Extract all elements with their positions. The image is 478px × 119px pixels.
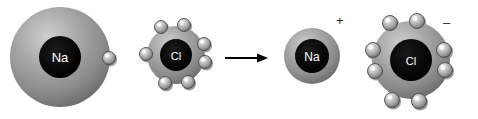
electron-highlight — [105, 54, 109, 58]
electron-highlight — [184, 78, 188, 82]
atom-symbol-label: Cl — [406, 55, 416, 67]
sodium-atom: Na — [10, 7, 117, 107]
electron-highlight — [201, 58, 205, 62]
valence-electron — [103, 52, 116, 65]
diagram-canvas: NaClNaCl — [0, 0, 478, 119]
electron-highlight — [368, 45, 373, 50]
valence-electron — [383, 16, 398, 31]
chloride-ion-charge-sign: – — [443, 16, 450, 29]
electron-highlight — [412, 16, 417, 21]
atom-symbol-label: Cl — [171, 50, 181, 62]
valence-electron — [198, 38, 211, 51]
ionic-bond-diagram: NaClNaCl +– — [0, 0, 478, 119]
chloride-ion: Cl — [366, 14, 455, 111]
electron-highlight — [440, 65, 445, 70]
valence-electron — [155, 21, 168, 34]
valence-electron — [437, 43, 452, 58]
chlorine-atom: Cl — [140, 19, 214, 92]
valence-electron — [140, 48, 153, 61]
electron-highlight — [157, 23, 161, 27]
valence-electron — [199, 56, 212, 69]
electron-highlight — [414, 96, 419, 101]
electron-highlight — [370, 66, 375, 71]
electron-highlight — [180, 21, 184, 25]
valence-electron — [368, 64, 383, 79]
electron-highlight — [142, 50, 146, 54]
valence-electron — [182, 76, 195, 89]
valence-electron — [366, 43, 381, 58]
valence-electron — [159, 77, 172, 90]
atom-symbol-label: Na — [52, 50, 69, 65]
electron-highlight — [161, 79, 165, 83]
arrow-layer — [225, 54, 268, 63]
sodium-ion-charge-sign: + — [336, 14, 344, 27]
valence-electron — [385, 93, 400, 108]
electron-highlight — [439, 45, 444, 50]
electron-highlight — [387, 95, 392, 100]
reaction-arrow-head — [257, 54, 268, 63]
sodium-ion: Na — [284, 28, 340, 84]
electron-highlight — [385, 18, 390, 23]
valence-electron — [412, 94, 427, 109]
valence-electron — [410, 14, 425, 29]
atom-symbol-label: Na — [304, 50, 320, 64]
valence-electron — [438, 63, 453, 78]
electron-highlight — [200, 40, 204, 44]
valence-electron — [178, 19, 191, 32]
